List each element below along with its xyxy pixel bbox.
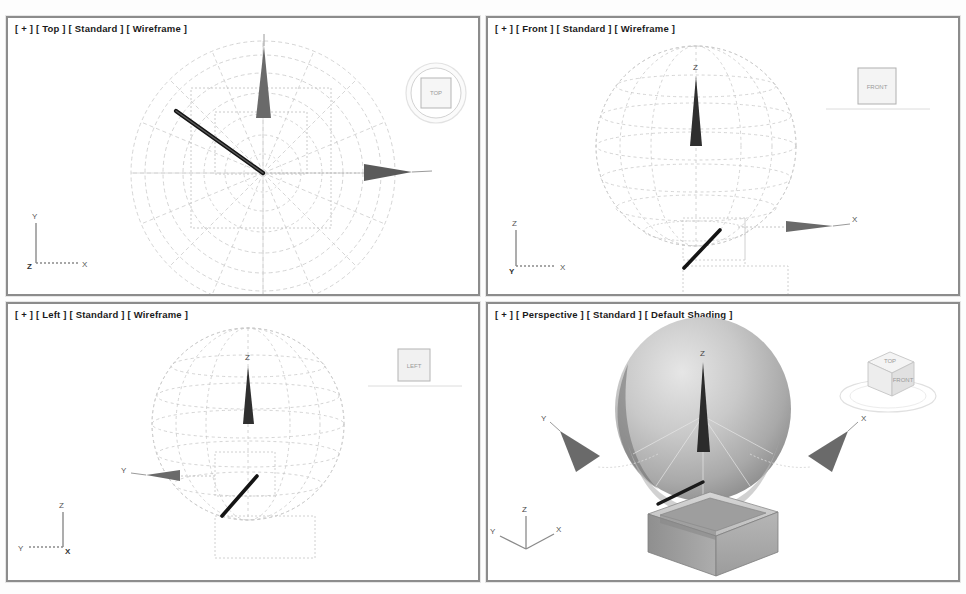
viewcube-front-face-label: FRONT [867, 84, 888, 90]
arrow-gizmo-y[interactable]: Y [121, 466, 215, 481]
arrow-gizmo-z[interactable]: Z [243, 353, 254, 424]
axis-tripod-left: Z Y X [18, 501, 71, 556]
arrow-gizmo-y[interactable] [256, 34, 271, 118]
top-caption [0, 0, 966, 14]
axis-label-y: Y [32, 212, 38, 221]
axis-label-z: Z [512, 219, 517, 228]
viewcube-left-face-label: LEFT [407, 363, 422, 369]
viewport-left-scene: Y Z LEFT Z Y [8, 304, 480, 582]
viewport-top-scene: TOP Y X Z [8, 18, 480, 296]
viewport-front-scene: X Z FRONT Z X [488, 18, 960, 296]
rod-line [684, 230, 720, 268]
arrow-gizmo-x[interactable]: X [738, 215, 858, 232]
viewport-perspective[interactable]: [ + ] [ Perspective ] [ Standard ] [ Def… [486, 302, 960, 582]
axis-label-y: Y [121, 466, 127, 475]
axis-tripod-front: Z X Y [509, 219, 566, 276]
viewcube-top-face-label: TOP [430, 90, 442, 96]
axis-tripod-top: Y X Z [27, 212, 88, 271]
axis-tripod-perspective: Z Y X [490, 505, 562, 549]
viewport-top[interactable]: [ + ] [ Top ] [ Standard ] [ Wireframe ] [6, 16, 480, 296]
arrow-gizmo-z[interactable]: Z [690, 63, 702, 146]
viewport-grid: [ + ] [ Top ] [ Standard ] [ Wireframe ] [6, 16, 960, 582]
viewcube-top[interactable]: TOP [406, 63, 466, 123]
axis-label-y: Y [18, 544, 24, 553]
axis-label-z: Z [245, 353, 250, 362]
axis-label-z: Z [59, 501, 64, 510]
viewport-left-stage: Y Z LEFT Z Y [8, 304, 478, 580]
bottom-caption [0, 580, 966, 594]
axis-label-z: Z [27, 262, 32, 271]
viewport-left[interactable]: [ + ] [ Left ] [ Standard ] [ Wireframe … [6, 302, 480, 582]
axis-label-x: X [560, 263, 566, 272]
axis-label-z: Z [522, 505, 527, 514]
axis-label-x: X [65, 547, 71, 556]
axis-label-y: Y [541, 414, 547, 423]
axis-label-y: Y [490, 527, 496, 536]
box-outline [683, 218, 788, 296]
arrow-gizmo-x[interactable] [266, 164, 432, 181]
viewport-front[interactable]: [ + ] [ Front ] [ Standard ] [ Wireframe… [486, 16, 960, 296]
axis-label-x: X [861, 414, 867, 423]
axis-label-x: X [82, 260, 88, 269]
viewport-perspective-stage: Z Y X [488, 304, 958, 580]
axis-label-y: Y [509, 267, 515, 276]
viewport-perspective-scene: Z Y X [488, 304, 960, 582]
viewport-top-stage: TOP Y X Z [8, 18, 478, 294]
viewcube-front[interactable]: FRONT [826, 68, 930, 109]
viewcube-perspective-top-label: TOP [884, 358, 896, 364]
axis-label-z: Z [693, 63, 698, 72]
viewcube-perspective[interactable]: TOP FRONT [840, 352, 936, 412]
axis-label-x: X [852, 215, 858, 224]
axis-label-z: Z [700, 349, 705, 358]
viewcube-left[interactable]: LEFT [368, 349, 462, 386]
viewcube-perspective-side-label: FRONT [893, 377, 914, 383]
viewport-front-stage: X Z FRONT Z X [488, 18, 958, 294]
axis-label-x: X [556, 525, 562, 534]
